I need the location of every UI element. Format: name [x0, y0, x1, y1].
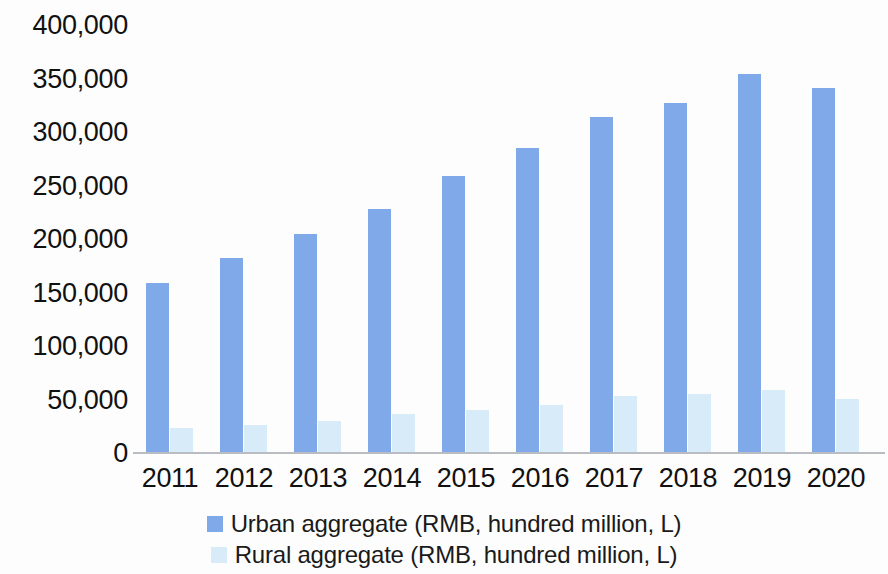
bar-rural[interactable]: [614, 396, 637, 454]
bar-rural[interactable]: [244, 425, 267, 454]
x-tick-label: 2015: [429, 463, 503, 494]
chart-legend: Urban aggregate (RMB, hundred million, L…: [0, 508, 888, 570]
bar-group: [729, 10, 797, 454]
bar-rural[interactable]: [540, 405, 563, 454]
bar-rural[interactable]: [392, 414, 415, 454]
bar-rural[interactable]: [466, 410, 489, 454]
y-tick-label: 0: [0, 440, 128, 467]
x-axis-baseline: [133, 452, 885, 454]
y-axis: 400,000350,000300,000250,000200,000150,0…: [0, 0, 128, 470]
y-tick-label: 250,000: [0, 173, 128, 200]
x-tick-label: 2014: [355, 463, 429, 494]
bar-rural[interactable]: [318, 421, 341, 454]
bar-urban[interactable]: [590, 117, 613, 454]
bar-urban[interactable]: [146, 283, 169, 454]
legend-item[interactable]: Urban aggregate (RMB, hundred million, L…: [0, 508, 888, 539]
x-tick-label: 2016: [503, 463, 577, 494]
bar-urban[interactable]: [664, 103, 687, 454]
legend-swatch-rural-icon: [211, 547, 227, 563]
bar-urban[interactable]: [516, 148, 539, 454]
x-tick-label: 2019: [725, 463, 799, 494]
bar-group: [285, 10, 353, 454]
bar-rural[interactable]: [836, 399, 859, 454]
bar-urban[interactable]: [220, 258, 243, 454]
bar-rural[interactable]: [762, 390, 785, 454]
bar-group: [507, 10, 575, 454]
bar-group: [581, 10, 649, 454]
bar-group: [137, 10, 205, 454]
bar-rural[interactable]: [170, 428, 193, 454]
bar-group: [211, 10, 279, 454]
bar-urban[interactable]: [738, 74, 761, 454]
legend-item[interactable]: Rural aggregate (RMB, hundred million, L…: [0, 539, 888, 570]
x-axis: 2011201220132014201520162017201820192020: [133, 463, 885, 503]
y-tick-label: 350,000: [0, 66, 128, 93]
bar-group: [433, 10, 501, 454]
bar-group: [359, 10, 427, 454]
bar-urban[interactable]: [442, 176, 465, 454]
legend-label: Urban aggregate (RMB, hundred million, L…: [231, 510, 682, 538]
bar-rural[interactable]: [688, 394, 711, 454]
y-tick-label: 100,000: [0, 333, 128, 360]
y-tick-label: 200,000: [0, 226, 128, 253]
y-tick-label: 400,000: [0, 12, 128, 39]
bar-group: [655, 10, 723, 454]
x-tick-label: 2011: [133, 463, 207, 494]
bar-urban[interactable]: [368, 209, 391, 454]
bar-urban[interactable]: [812, 88, 835, 454]
bar-urban[interactable]: [294, 234, 317, 454]
x-tick-label: 2013: [281, 463, 355, 494]
y-tick-label: 300,000: [0, 119, 128, 146]
bar-group: [803, 10, 871, 454]
legend-label: Rural aggregate (RMB, hundred million, L…: [235, 541, 678, 569]
legend-swatch-urban-icon: [207, 516, 223, 532]
plot-area: [133, 10, 883, 454]
x-tick-label: 2012: [207, 463, 281, 494]
y-tick-label: 150,000: [0, 280, 128, 307]
bar-chart: 400,000350,000300,000250,000200,000150,0…: [0, 0, 888, 574]
x-tick-label: 2017: [577, 463, 651, 494]
y-tick-label: 50,000: [0, 387, 128, 414]
x-tick-label: 2018: [651, 463, 725, 494]
x-tick-label: 2020: [799, 463, 873, 494]
